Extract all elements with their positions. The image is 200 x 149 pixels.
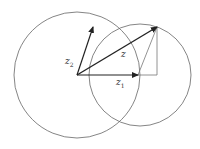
diagram-canvas xyxy=(0,0,200,149)
vector-z2 xyxy=(77,27,93,75)
vector-diagram: z2 z z1 xyxy=(0,0,200,149)
label-z1: z1 xyxy=(116,78,125,89)
vector-z xyxy=(77,27,157,75)
helper-diagonal xyxy=(138,27,157,75)
label-z: z xyxy=(121,50,126,59)
label-z2: z2 xyxy=(65,57,74,68)
